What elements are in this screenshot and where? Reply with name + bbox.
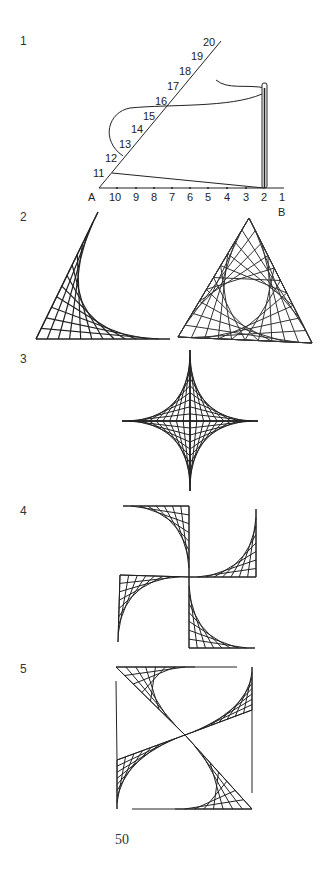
figure-3-label: 3 <box>20 352 27 366</box>
diagonal-number: 20 <box>203 36 215 48</box>
diagonal-number: 13 <box>119 138 131 150</box>
diagonal-number: 11 <box>93 167 104 179</box>
page-number: 50 <box>115 832 129 848</box>
base-number: 10 <box>109 191 121 203</box>
figure-5-label: 5 <box>20 662 27 676</box>
diagonal-number: 17 <box>167 80 179 92</box>
base-number: 7 <box>169 191 175 203</box>
diagonal-number: 18 <box>179 65 191 77</box>
base-number: 5 <box>205 191 211 203</box>
base-number: 1 <box>279 191 285 203</box>
figure-1-diagram: A 10 9 8 7 6 5 4 3 2 1 B 11 12 13 14 15 … <box>0 0 320 220</box>
diagonal-number: 15 <box>143 110 155 122</box>
figure-4-label: 4 <box>20 504 27 518</box>
point-a-label: A <box>88 191 96 203</box>
point-b-label: B <box>278 206 285 218</box>
diagonal-number: 19 <box>191 50 203 62</box>
base-number: 3 <box>243 191 249 203</box>
base-number: 2 <box>261 191 267 203</box>
base-number: 8 <box>151 191 157 203</box>
diagonal-number: 16 <box>155 95 167 107</box>
base-number: 6 <box>187 191 193 203</box>
base-number: 9 <box>133 191 139 203</box>
base-number: 4 <box>224 191 230 203</box>
diagonal-number: 14 <box>131 123 143 135</box>
diagonal-number: 12 <box>105 152 117 164</box>
